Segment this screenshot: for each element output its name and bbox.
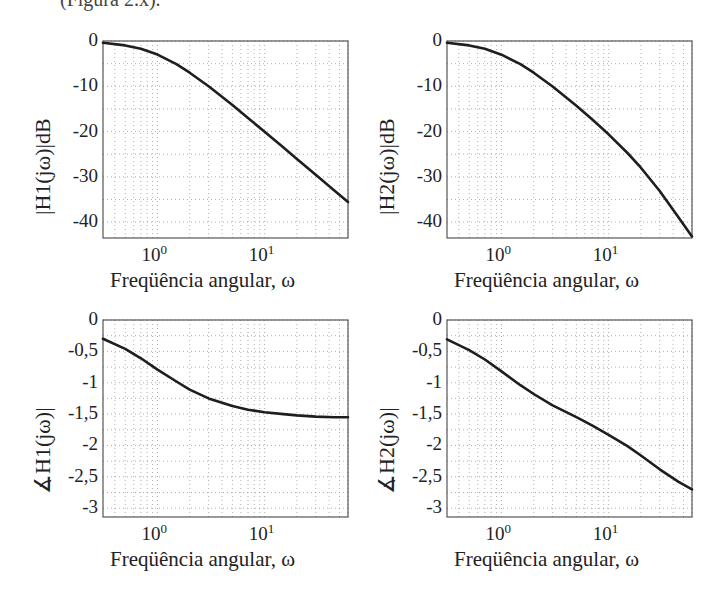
grid [447, 41, 692, 238]
x-tick-label: 101 [249, 521, 275, 545]
y-tick-label: -3 [58, 496, 98, 518]
x-tick-label: 100 [485, 521, 511, 545]
y-tick-label: -1 [402, 371, 442, 393]
y-tick-label: 0 [58, 308, 98, 330]
y-axis-label: |H1(jω)|dB [30, 118, 56, 215]
chart-panel-mag-h2: 0-10-20-30-40100101Freqüência angular, ω… [344, 0, 702, 300]
y-tick-label: -1,5 [402, 402, 442, 424]
y-tick-label: -10 [58, 74, 98, 96]
y-axis-label: ∡H1(jω)| [30, 407, 56, 494]
data-line [103, 43, 348, 202]
chart-panel-phase-h2: 0-0,5-1-1,5-2-2,5-3100101Freqüência angu… [344, 279, 702, 579]
grid [103, 320, 348, 517]
y-tick-label: -3 [402, 496, 442, 518]
y-tick-label: -40 [402, 210, 442, 232]
y-tick-label: -0,5 [402, 339, 442, 361]
y-tick-label: -1,5 [58, 402, 98, 424]
y-tick-label: -1 [58, 371, 98, 393]
y-tick-label: 0 [402, 29, 442, 51]
y-tick-label: -10 [402, 74, 442, 96]
y-tick-label: -40 [58, 210, 98, 232]
y-tick-label: -2,5 [402, 465, 442, 487]
y-tick-label: -2 [58, 433, 98, 455]
chart-panel-mag-h1: 0-10-20-30-40100101Freqüência angular, ω… [0, 0, 358, 300]
x-tick-label: 100 [485, 242, 511, 266]
y-tick-label: 0 [402, 308, 442, 330]
y-tick-label: -2 [402, 433, 442, 455]
y-axis-label: |H2(jω)|dB [374, 118, 400, 215]
axes-box [447, 41, 692, 238]
x-tick-label: 100 [141, 521, 167, 545]
x-axis-label: Freqüência angular, ω [110, 547, 295, 572]
y-tick-label: -30 [402, 165, 442, 187]
x-axis-label: Freqüência angular, ω [454, 547, 639, 572]
x-tick-label: 100 [141, 242, 167, 266]
y-tick-label: -30 [58, 165, 98, 187]
data-line [447, 43, 692, 237]
y-axis-label: ∡H2(jω)| [374, 407, 400, 494]
grid [103, 41, 348, 238]
y-tick-label: -20 [58, 120, 98, 142]
axes-box [447, 320, 692, 517]
y-tick-label: -20 [402, 120, 442, 142]
x-tick-label: 101 [593, 521, 619, 545]
y-tick-label: -2,5 [58, 465, 98, 487]
x-tick-label: 101 [593, 242, 619, 266]
y-tick-label: -0,5 [58, 339, 98, 361]
y-tick-label: 0 [58, 29, 98, 51]
axes-box [103, 320, 348, 517]
axes-box [103, 41, 348, 238]
data-line [103, 339, 348, 417]
x-tick-label: 101 [249, 242, 275, 266]
grid [447, 320, 692, 517]
chart-panel-phase-h1: 0-0,5-1-1,5-2-2,5-3100101Freqüência angu… [0, 279, 358, 579]
